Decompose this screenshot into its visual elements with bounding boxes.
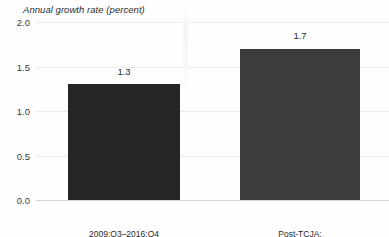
value-label-bar-1: 1.7 [293, 30, 306, 41]
category-label-bar-1-line1: Post-TCJA: [265, 228, 335, 237]
category-label-bar-0: 2009:Q3–2016:Q4 [89, 228, 159, 237]
ytick-label-0-0: 0.0 [0, 195, 30, 206]
axis-baseline [36, 200, 389, 201]
ytick-label-1-5: 1.5 [0, 61, 30, 72]
category-label-bar-0-line1: 2009:Q3–2016:Q4 [89, 228, 159, 237]
ytick-label-0-5: 0.5 [0, 150, 30, 161]
bar-2009q3-2016q4[interactable] [68, 84, 180, 200]
axis-title: Annual growth rate (percent) [23, 4, 145, 15]
ytick-label-1-0: 1.0 [0, 106, 30, 117]
gridline-2-0 [36, 22, 389, 23]
category-label-bar-1: Post-TCJA: 2017:Q4–2019:Q4 [265, 228, 335, 237]
bar-post-tcja[interactable] [240, 49, 360, 200]
plot-area: 1.3 1.7 2009:Q3–2016:Q4 Post-TCJA: 2017:… [36, 22, 389, 200]
bar-chart: Annual growth rate (percent) 1.3 1.7 200… [0, 0, 389, 237]
ytick-label-2-0: 2.0 [0, 17, 30, 28]
value-label-bar-0: 1.3 [117, 66, 130, 77]
